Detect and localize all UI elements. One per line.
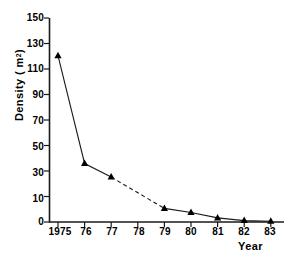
data-point-1975 xyxy=(54,52,61,59)
line-segment-solid-1975-77 xyxy=(58,56,111,177)
plot-area xyxy=(0,0,292,262)
data-point-1976 xyxy=(81,160,88,167)
data-point-1983 xyxy=(267,217,274,224)
y-axis-ticks xyxy=(44,18,49,222)
line-segment-dashed-77-79 xyxy=(111,177,164,208)
density-vs-year-chart: Density ( m2 ) Year 150 130 110 90 70 50… xyxy=(0,0,292,262)
data-markers xyxy=(54,52,274,224)
axes xyxy=(49,18,284,223)
data-line-density xyxy=(58,56,271,222)
data-point-1979 xyxy=(161,204,168,211)
